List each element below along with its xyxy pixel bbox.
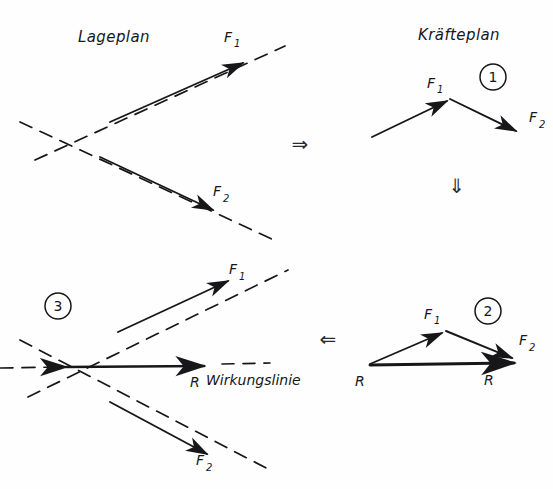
label-f2-chain: F 2 [529,109,545,130]
label-f2-base: F [529,109,538,125]
label-f1-triangle: F 1 [424,306,440,326]
label-f1-base: F [424,306,433,322]
label-f2-sub: 2 [206,462,212,473]
marker-step-3: 3 [45,293,71,319]
label-resultant-triangle: R [484,372,494,388]
marker-step-2: 2 [475,298,501,324]
title-kraefteplan: Kräfteplan [418,26,500,44]
action-line-f1-dashed [35,46,285,160]
label-f1-base: F [427,75,436,91]
label-f2-base: F [519,332,528,348]
label-f2-sub: 2 [539,119,545,130]
marker-step-2-label: 2 [484,303,493,319]
vector-f2 [100,157,213,210]
marker-step-1-label: 1 [489,69,498,85]
panel-kraefteplan-step2: F 1 F 2 R 2 [370,298,535,388]
label-f1-sub: 1 [434,315,440,326]
label-f1-sub: 1 [234,38,240,49]
marker-step-1: 1 [480,64,506,90]
label-f1-sub: 1 [239,271,245,282]
triangle-vector-resultant [370,363,514,365]
label-f2-lageplan3: F 2 [196,452,212,473]
marker-step-3-label: 3 [54,298,63,314]
label-f1-chain: F 1 [427,75,443,95]
label-f1-base: F [224,29,233,45]
chain-vector-f1 [372,101,447,137]
label-resultant-left: R [190,374,200,390]
chain-vector-f2 [450,99,516,131]
panel-lageplan-top: Lageplan F 1 F 2 [20,28,285,242]
panel-lageplan-step3: F 1 F 2 R Wirkungslinie R 3 [0,261,365,473]
diagram-canvas: Lageplan F 1 F 2 Kräfteplan F 1 F [0,0,553,489]
label-wirkungslinie: Wirkungslinie [206,372,301,388]
label-f1-lageplan3: F 1 [229,261,245,282]
label-f1-base: F [229,261,238,277]
diagram-page: Lageplan F 1 F 2 Kräfteplan F 1 F [0,0,553,489]
action-line-f2-dashed [20,340,270,470]
label-f2-triangle: F 2 [519,332,535,353]
label-f2-sub: 2 [223,193,229,204]
label-f2-base: F [196,452,205,468]
label-f2-sub: 2 [529,342,535,353]
double-arrow-down-icon: ⇓ [449,174,466,198]
action-line-f2-dashed [20,122,278,242]
double-arrow-right-icon: ⇒ [292,132,309,156]
panel-kraefteplan-step1: Kräfteplan F 1 F 2 1 [372,26,545,137]
vector-resultant-line-of-action [66,366,204,367]
vector-f1 [110,63,243,122]
vector-f2 [110,402,207,454]
label-f1-lageplan: F 1 [224,29,240,49]
wirkungslinie-extension-dashed [222,363,270,364]
title-lageplan: Lageplan [78,28,150,46]
action-line-resultant-dashed [0,367,60,368]
label-f2-base: F [213,183,222,199]
triangle-vector-f1 [370,333,442,364]
label-resultant-right: R [355,373,365,389]
label-f2-lageplan: F 2 [213,183,229,204]
label-f1-sub: 1 [437,84,443,95]
double-arrow-left-icon: ⇐ [320,327,337,351]
triangle-vector-f2 [446,331,512,358]
